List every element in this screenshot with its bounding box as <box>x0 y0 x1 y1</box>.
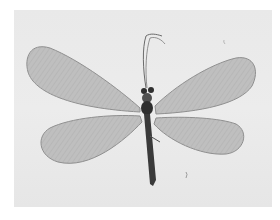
speck <box>224 40 225 44</box>
lacewing-illustration <box>0 0 280 220</box>
forewing-left <box>27 47 140 112</box>
eye-right <box>148 87 154 93</box>
thorax <box>141 101 153 115</box>
hindwing-left <box>41 116 142 164</box>
speck <box>186 172 187 178</box>
insect-body <box>141 87 160 186</box>
hindwing-right <box>154 117 244 154</box>
antennae <box>143 34 165 88</box>
forewing-right <box>155 58 255 114</box>
